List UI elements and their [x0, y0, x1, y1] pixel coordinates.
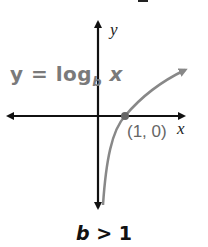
function-label: y = logb x: [10, 62, 123, 89]
caption: b > 1: [76, 222, 132, 244]
x-axis-label: x: [177, 119, 185, 139]
point-1-0: [121, 112, 129, 120]
point-label: (1, 0): [127, 122, 167, 142]
y-axis-label: y: [110, 20, 118, 40]
